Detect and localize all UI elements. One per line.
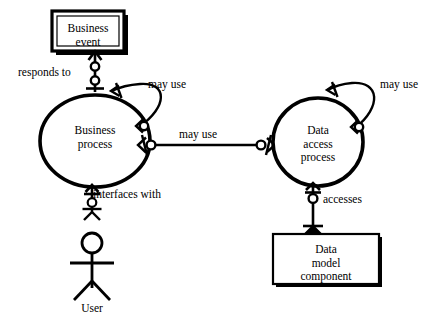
edge-responds-to[interactable]: [86, 51, 104, 92]
user-label: User: [70, 302, 114, 316]
edge-label-may-use-data-access: may use: [179, 128, 217, 141]
user-head: [82, 233, 102, 253]
may-use-left-circle: [147, 141, 156, 150]
node-user[interactable]: [70, 233, 114, 300]
interfaces-with-actor-symbol: [83, 198, 102, 220]
edge-label-data-access-may-use-self: may use: [380, 78, 418, 91]
responds-to-circle-upper: [91, 62, 99, 70]
user-leg-left: [74, 281, 92, 300]
small-actor-leg-left: [84, 212, 92, 220]
accesses-circle: [309, 194, 318, 203]
user-leg-right: [92, 281, 110, 300]
small-actor-leg-right: [92, 212, 100, 220]
edge-label-accesses: accesses: [323, 193, 362, 206]
edge-label-business-process-may-use-self: may use: [148, 78, 186, 91]
business-event-label: Business event: [52, 22, 124, 49]
business-process-label: Business process: [45, 124, 145, 151]
edge-accesses[interactable]: [303, 183, 323, 234]
edge-label-responds-to: responds to: [18, 66, 71, 79]
diagram-canvas: Business event Business process Data acc…: [0, 0, 437, 324]
data-model-component-label: Data model component: [273, 243, 379, 284]
responds-to-circle-lower: [91, 76, 99, 84]
data-access-process-label: Data access process: [278, 124, 358, 165]
may-use-right-circle: [257, 141, 266, 150]
edge-label-interfaces-with: interfaces with: [93, 188, 161, 201]
